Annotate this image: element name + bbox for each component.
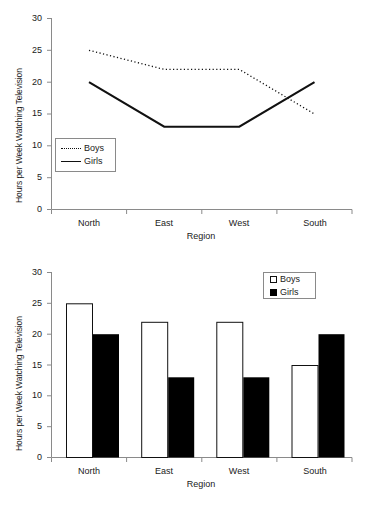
x-tick-label-west: West <box>214 466 264 476</box>
legend-item-boys: Boys <box>59 142 111 155</box>
bar-girls-west <box>243 377 269 457</box>
legend-label-girls: Girls <box>83 155 103 168</box>
x-axis-ticks <box>52 210 353 215</box>
open-square-icon <box>267 273 279 286</box>
legend-item-girls: Girls <box>267 286 312 299</box>
series-line-girls <box>89 82 315 127</box>
x-tick-label-north: North <box>64 466 114 476</box>
bar-girls-north <box>93 334 119 457</box>
y-axis-title: Hours per Week Watching Television <box>14 68 24 203</box>
solid-line-icon <box>59 155 83 168</box>
bar-chart-figure: 30 25 20 15 10 5 0 Hours per Week Watchi… <box>0 250 369 508</box>
y-tick-label: 30 <box>20 267 42 277</box>
y-tick-label: 25 <box>20 298 42 308</box>
bar-chart-legend: Boys Girls <box>263 272 316 299</box>
dotted-line-icon <box>59 142 83 155</box>
x-tick-label-east: East <box>139 218 189 228</box>
y-axis-ticks <box>47 273 52 458</box>
line-chart-legend: Boys Girls <box>55 138 116 172</box>
bar-boys-north <box>67 304 93 458</box>
line-chart-plot-area <box>0 0 369 250</box>
legend-label-boys: Boys <box>83 142 104 155</box>
x-tick-label-south: South <box>290 466 340 476</box>
line-chart-figure: 30 25 20 15 10 5 0 Hours per Week Watchi… <box>0 0 369 250</box>
legend-label-girls: Girls <box>279 286 299 299</box>
y-tick-label: 0 <box>20 204 42 214</box>
series-line-boys <box>89 50 315 114</box>
x-tick-label-east: East <box>139 466 189 476</box>
y-tick-label: 30 <box>20 13 42 23</box>
x-axis-title: Region <box>151 479 251 489</box>
x-tick-label-west: West <box>214 218 264 228</box>
x-axis-ticks <box>52 458 353 463</box>
legend-item-boys: Boys <box>267 273 312 286</box>
x-tick-label-south: South <box>290 218 340 228</box>
bar-boys-east <box>142 322 168 457</box>
x-tick-label-north: North <box>64 218 114 228</box>
y-tick-label: 25 <box>20 45 42 55</box>
bar-girls-south <box>319 334 345 457</box>
filled-square-icon <box>267 286 279 299</box>
x-axis-title: Region <box>151 231 251 241</box>
y-axis-ticks <box>47 19 52 210</box>
legend-item-girls: Girls <box>59 155 111 168</box>
y-axis-title: Hours per Week Watching Television <box>14 316 24 451</box>
y-tick-label: 0 <box>20 452 42 462</box>
legend-label-boys: Boys <box>279 273 300 286</box>
bar-boys-south <box>292 366 318 458</box>
bar-girls-east <box>168 377 194 457</box>
bar-boys-west <box>217 322 243 457</box>
